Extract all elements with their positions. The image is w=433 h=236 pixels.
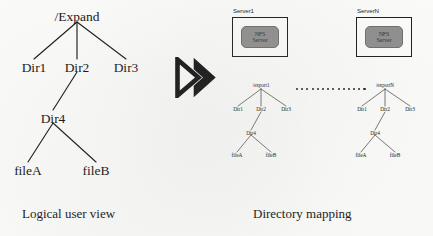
ellipsis-dot [327, 88, 329, 90]
server-1-filea: fileA [232, 153, 243, 158]
logical-view-caption: Logical user view [22, 207, 115, 220]
ellipsis-dot [358, 88, 360, 90]
server-n-label: ServerN [357, 8, 379, 14]
diagram-canvas: /Expand Dir1 Dir2 Dir3 Dir4 fileA fileB … [0, 0, 433, 236]
logical-tree-dir3: Dir3 [114, 61, 139, 75]
logical-tree-filea: fileA [14, 164, 42, 178]
server-n-nfs-chip-line2: Server [376, 37, 391, 43]
ellipsis-dot [296, 88, 298, 90]
server-1-export-root: /export1 [253, 83, 270, 88]
ellipsis-dot [353, 88, 355, 90]
server-n-fileb: fileB [390, 153, 401, 158]
server-1-nfs-chip: NFS Server [241, 26, 279, 48]
server-1-dir4: Dir4 [246, 131, 256, 136]
ellipsis-dot [338, 88, 340, 90]
server-1-dir3: Dir3 [281, 107, 291, 112]
server-n-dir3: Dir3 [405, 107, 415, 112]
ellipsis-dot [306, 88, 308, 90]
ellipsis-dot [312, 88, 314, 90]
server-1-fileb: fileB [266, 153, 277, 158]
ellipsis-dot [348, 88, 350, 90]
ellipsis-dot [363, 88, 365, 90]
logical-tree-root: /Expand [55, 10, 100, 24]
server-n-box: NFS Server [356, 17, 412, 57]
server-1-dir1: Dir1 [233, 107, 243, 112]
server-n-nfs-chip: NFS Server [365, 26, 403, 48]
ellipsis-dot [317, 88, 319, 90]
server-1-label: Server1 [233, 8, 254, 14]
server-n-dir1: Dir1 [357, 107, 367, 112]
server-n-dir2: Dir2 [380, 107, 390, 112]
double-chevron-right-arrow-icon [175, 57, 217, 102]
logical-tree-dir2: Dir2 [65, 61, 90, 75]
server-1-nfs-chip-line2: Server [252, 37, 267, 43]
ellipsis-dot [301, 88, 303, 90]
ellipsis-dot [343, 88, 345, 90]
server-n-export-root: /exportN [376, 83, 394, 88]
server-n-filea: fileA [356, 153, 367, 158]
logical-tree-dir4: Dir4 [41, 112, 66, 126]
server-1-box: NFS Server [232, 17, 288, 57]
server-1-dir2: Dir2 [256, 107, 266, 112]
ellipsis-dot [332, 88, 334, 90]
ellipsis-dot [322, 88, 324, 90]
server-n-dir4: Dir4 [370, 131, 380, 136]
directory-mapping-caption: Directory mapping [253, 207, 352, 220]
logical-tree-dir1: Dir1 [22, 61, 47, 75]
logical-tree-fileb: fileB [83, 164, 110, 178]
server-ellipsis-dots [296, 88, 366, 90]
